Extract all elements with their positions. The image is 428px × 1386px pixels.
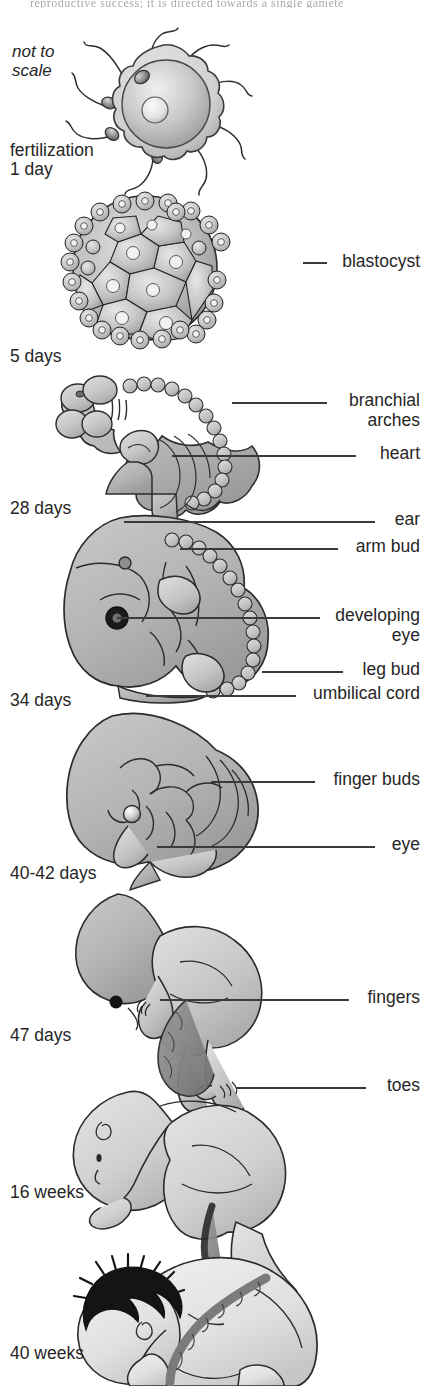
not-to-scale-note: not to scale [12, 42, 55, 80]
stage-label-0: fertilization 1 day [10, 141, 94, 179]
callout-label-8: finger buds [333, 770, 420, 790]
eye-47 [110, 996, 123, 1009]
heart-bulge-28 [120, 431, 158, 465]
ear-pit-34 [119, 557, 131, 569]
callout-label-1: branchial arches [349, 391, 420, 430]
stage-art-47-days [76, 894, 262, 1114]
fetus-16w-trunk [164, 1105, 286, 1239]
cropped-caption-text: reproductive success; it is directed tow… [30, 0, 428, 8]
callout-label-11: toes [387, 1076, 420, 1096]
stage-art-fertilization [66, 28, 252, 195]
body-stalk-28 [106, 462, 152, 494]
callout-label-0: blastocyst [342, 252, 420, 272]
callout-label-7: umbilical cord [313, 684, 420, 704]
callout-label-9: eye [392, 835, 420, 855]
branchial-arch-lines [111, 399, 127, 420]
stage-label-2: 28 days [10, 499, 71, 518]
callout-label-6: leg bud [363, 660, 420, 680]
stage-label-5: 47 days [10, 1026, 71, 1045]
stage-label-6: 16 weeks [10, 1183, 84, 1202]
stage-art-34-days [64, 516, 268, 703]
callout-label-4: arm bud [356, 537, 420, 557]
embryo-40-body [67, 714, 258, 873]
ovum-nucleus [142, 97, 168, 123]
stage-label-7: 40 weeks [10, 1344, 84, 1363]
stage-label-1: 5 days [10, 347, 62, 366]
stage-label-4: 40-42 days [10, 864, 97, 883]
stage-art-28-days [56, 376, 260, 530]
callout-label-2: heart [380, 444, 420, 464]
stage-label-3: 34 days [10, 691, 71, 710]
eye-40 [124, 806, 141, 823]
stage-art-blastocyst [61, 192, 230, 349]
embryo-28-head-lobes [56, 376, 117, 438]
callout-label-3: ear [395, 510, 420, 530]
embryo-development-figure: reproductive success; it is directed tow… [0, 0, 428, 1386]
callout-label-10: fingers [367, 988, 420, 1008]
callout-label-5: developing eye [335, 606, 420, 645]
